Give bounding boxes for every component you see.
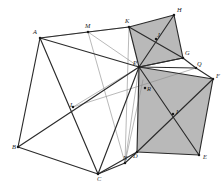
vertex-dot-K [128,26,131,29]
vertex-label-A: A [32,28,37,35]
edge-AM [40,32,88,38]
vertex-dot-P [138,66,141,69]
vertex-dot-M [87,31,90,34]
vertex-label-C: C [97,175,102,182]
edge-AB [18,38,40,147]
edge-BC [18,147,98,174]
vertex-label-P: P [132,59,137,66]
vertex-label-B: B [12,143,16,150]
edge-MK [88,27,129,32]
vertex-label-Q: Q [197,60,202,67]
vertex-label-N: N [122,154,128,161]
vertex-label-F: F [215,72,220,79]
vertex-dot-B [17,146,20,149]
vertex-label-K: K [124,17,130,24]
vertex-dot-F [212,78,215,81]
edge-CD [98,152,137,174]
vertex-dot-R [144,87,147,90]
vertex-dot-I [172,113,175,116]
vertex-dot-A [39,37,42,40]
edge-AC [40,38,98,174]
vertex-label-H: H [176,6,182,13]
vertex-label-D: D [132,152,138,159]
vertex-dot-N [124,162,127,165]
edge-BP [18,67,139,147]
vertex-dot-H [173,14,176,17]
vertex-label-G: G [185,49,190,56]
edge-AP [40,38,139,67]
vertex-dot-G [182,57,185,60]
vertex-dot-E [198,154,201,157]
vertex-label-R: R [146,85,151,92]
geometry-diagram-canvas: ABCDEFGHIJKLMNPQR [0,0,223,185]
geometry-figure: ABCDEFGHIJKLMNPQR [0,0,223,185]
edge-GQ [183,58,196,68]
vertex-label-E: E [202,153,207,160]
vertex-label-L: L [69,101,74,108]
vertex-label-M: M [84,22,91,29]
